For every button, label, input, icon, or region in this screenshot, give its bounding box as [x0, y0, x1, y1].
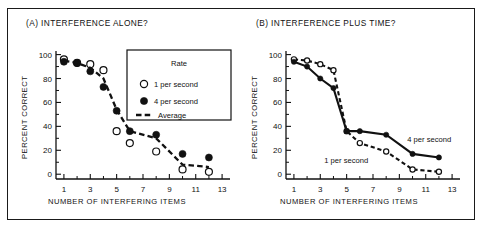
- x-tick-label: 7: [141, 185, 146, 194]
- data-point-1-per-second: [436, 169, 441, 174]
- legend-marker-filled-circle: [140, 97, 147, 104]
- panel-a-plot: 020406080100135791113 Rate 1 per second …: [8, 9, 244, 221]
- x-tick-label: 5: [344, 185, 349, 194]
- x-tick-label: 3: [318, 185, 323, 194]
- figure-container: (A) INTERFERENCE ALONE? PERCENT CORRECT …: [0, 0, 483, 232]
- panel-a-legend: Rate 1 per second 4 per second Average: [127, 50, 231, 120]
- y-tick-label: 0: [48, 170, 53, 179]
- legend-title: Rate: [171, 59, 187, 68]
- x-tick-label: 9: [397, 185, 402, 194]
- data-point-4-per-second: [410, 151, 415, 156]
- x-tick-label: 3: [88, 185, 93, 194]
- y-tick-label: 80: [43, 75, 52, 84]
- legend-label-average: Average: [158, 111, 186, 120]
- panel-b-plot: 020406080100135791113 4 per second 1 per…: [244, 9, 476, 221]
- data-point-4-per-second: [436, 155, 441, 160]
- y-tick-label: 40: [43, 122, 52, 131]
- data-point-1-per-second: [318, 62, 323, 67]
- x-tick-label: 13: [218, 185, 227, 194]
- data-point-1-per-second: [126, 140, 133, 147]
- figure-frame: (A) INTERFERENCE ALONE? PERCENT CORRECT …: [7, 8, 475, 220]
- legend-marker-open-circle: [140, 80, 147, 87]
- y-tick-label: 100: [269, 51, 283, 60]
- panel-b-axes: 020406080100135791113: [269, 51, 460, 194]
- data-point-4-per-second: [291, 59, 296, 64]
- annotation-1-per-second: 1 per second: [324, 156, 368, 165]
- data-point-1-per-second: [179, 166, 186, 173]
- annotation-4-per-second: 4 per second: [407, 135, 451, 144]
- data-point-4-per-second: [318, 76, 323, 81]
- y-tick-label: 100: [39, 51, 53, 60]
- x-tick-label: 11: [422, 185, 431, 194]
- data-point-4-per-second: [331, 85, 336, 90]
- data-point-1-per-second: [384, 149, 389, 154]
- y-tick-label: 60: [43, 98, 52, 107]
- data-point-4-per-second: [205, 154, 212, 161]
- data-point-1-per-second: [153, 148, 160, 155]
- data-point-1-per-second: [331, 68, 336, 73]
- y-tick-label: 20: [43, 146, 52, 155]
- y-tick-label: 0: [278, 170, 283, 179]
- x-tick-label: 5: [114, 185, 119, 194]
- x-tick-label: 13: [448, 185, 457, 194]
- y-tick-label: 60: [273, 98, 282, 107]
- x-tick-label: 11: [192, 185, 201, 194]
- panel-a: (A) INTERFERENCE ALONE? PERCENT CORRECT …: [8, 9, 244, 221]
- x-tick-label: 7: [371, 185, 376, 194]
- data-point-4-per-second: [344, 129, 349, 134]
- data-point-1-per-second: [410, 167, 415, 172]
- data-point-1-per-second: [113, 128, 120, 135]
- legend-label-4-per-second: 4 per second: [154, 97, 198, 106]
- data-point-1-per-second: [304, 58, 309, 63]
- data-point-4-per-second: [179, 150, 186, 157]
- x-tick-label: 1: [292, 185, 297, 194]
- y-tick-label: 80: [273, 75, 282, 84]
- panel-b: (B) INTERFERENCE PLUS TIME? PERCENT CORR…: [244, 9, 476, 221]
- data-point-1-per-second: [205, 168, 212, 175]
- x-tick-label: 1: [62, 185, 67, 194]
- data-point-4-per-second: [384, 132, 389, 137]
- x-tick-label: 9: [167, 185, 172, 194]
- data-point-4-per-second: [153, 131, 160, 138]
- y-tick-label: 20: [273, 146, 282, 155]
- y-tick-label: 40: [273, 122, 282, 131]
- data-point-4-per-second: [357, 129, 362, 134]
- data-point-1-per-second: [357, 141, 362, 146]
- data-point-1-per-second: [100, 67, 107, 74]
- data-point-4-per-second: [304, 64, 309, 69]
- legend-label-1-per-second: 1 per second: [154, 80, 198, 89]
